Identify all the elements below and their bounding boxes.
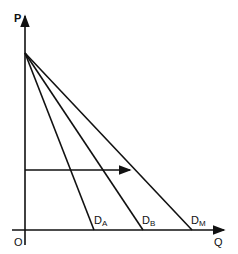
origin-label: O — [14, 236, 23, 248]
x-axis-label: Q — [214, 236, 223, 248]
label-db: DB — [142, 214, 155, 228]
label-da: DA — [94, 214, 108, 228]
label-dm: DM — [191, 214, 206, 228]
y-axis-label: P — [14, 12, 21, 24]
demand-curve-m — [25, 53, 192, 230]
demand-diagram: P Q O DA DB DM — [0, 0, 238, 254]
